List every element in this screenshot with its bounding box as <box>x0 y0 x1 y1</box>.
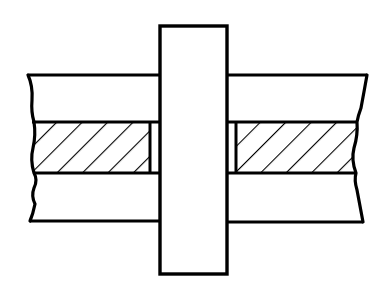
hatched-layer-left <box>28 122 152 173</box>
diagram-canvas: Cross-section: pin through layered plate… <box>0 0 392 290</box>
pin <box>160 26 227 274</box>
hatched-layer-right <box>236 122 362 173</box>
right-break-line <box>353 75 367 222</box>
right-plate-group <box>227 75 367 222</box>
left-plate-group <box>28 75 160 221</box>
cross-section-drawing <box>0 0 392 290</box>
